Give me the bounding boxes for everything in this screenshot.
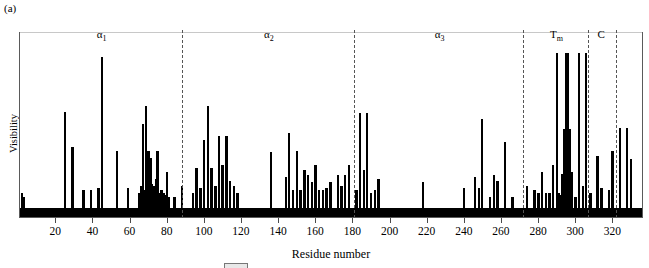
legend-box-artifact xyxy=(224,263,248,268)
x-tick xyxy=(278,218,279,223)
domain-divider-2 xyxy=(354,30,355,218)
bar xyxy=(285,177,288,209)
bar xyxy=(311,182,314,209)
bar xyxy=(337,175,340,209)
bar xyxy=(422,182,425,209)
bar xyxy=(611,151,614,209)
bar xyxy=(596,156,599,209)
bar xyxy=(533,190,536,210)
x-tick xyxy=(204,218,205,223)
x-axis-line xyxy=(19,217,643,218)
x-tick xyxy=(390,218,391,223)
x-tick xyxy=(315,218,316,223)
x-tick-label: 100 xyxy=(195,225,212,237)
baseline-band xyxy=(20,208,642,217)
bar xyxy=(578,53,580,209)
x-tick xyxy=(427,218,428,223)
bar xyxy=(630,159,633,209)
bar xyxy=(626,128,628,209)
bar xyxy=(82,190,85,210)
bar xyxy=(71,147,74,209)
x-tick-label: 320 xyxy=(604,225,621,237)
bar xyxy=(64,112,66,209)
x-tick-label: 60 xyxy=(124,225,136,237)
bar xyxy=(116,151,119,209)
x-tick xyxy=(464,218,465,223)
x-tick xyxy=(352,218,353,223)
x-tick xyxy=(167,218,168,223)
bar xyxy=(474,177,477,209)
domain-label-alpha-3: α3 xyxy=(435,28,445,43)
bar xyxy=(195,168,198,209)
domain-label-alpha-1: α1 xyxy=(97,28,107,43)
bar xyxy=(199,188,202,209)
bar xyxy=(359,113,361,209)
bar xyxy=(340,186,343,209)
x-tick-label: 140 xyxy=(269,225,286,237)
x-tick xyxy=(501,218,502,223)
bar xyxy=(348,165,351,209)
bar xyxy=(203,140,206,209)
bar xyxy=(370,193,373,209)
bar xyxy=(210,168,213,209)
x-tick-label: 240 xyxy=(455,225,472,237)
bar xyxy=(221,165,224,209)
bar xyxy=(481,119,483,209)
bar xyxy=(552,165,555,209)
x-tick xyxy=(612,218,613,223)
x-tick-label: 300 xyxy=(567,225,584,237)
x-tick xyxy=(538,218,539,223)
bar xyxy=(478,188,481,209)
bar xyxy=(329,182,332,209)
bar xyxy=(366,113,368,209)
bar xyxy=(344,175,347,209)
bar xyxy=(374,190,377,210)
bar xyxy=(192,193,195,209)
bar xyxy=(218,136,221,209)
x-tick-label: 80 xyxy=(161,225,173,237)
bar xyxy=(496,181,499,209)
domain-label-c: C xyxy=(598,28,605,40)
x-tick xyxy=(130,218,131,223)
bar xyxy=(589,193,592,209)
bar xyxy=(537,193,540,209)
x-tick xyxy=(241,218,242,223)
bar xyxy=(127,188,130,209)
x-tick xyxy=(55,218,56,223)
domain-divider-4 xyxy=(588,30,589,218)
x-tick xyxy=(92,218,93,223)
x-tick-label: 280 xyxy=(529,225,546,237)
bar xyxy=(541,172,544,209)
x-tick-label: 180 xyxy=(344,225,361,237)
x-tick-label: 20 xyxy=(50,225,62,237)
bar xyxy=(207,106,209,209)
bar xyxy=(288,133,290,209)
bar xyxy=(318,190,321,210)
x-axis-label: Residue number xyxy=(20,247,642,262)
bar xyxy=(463,188,466,209)
bar xyxy=(608,190,611,210)
bar xyxy=(303,170,306,209)
bar xyxy=(545,193,548,209)
bar xyxy=(214,186,217,209)
bar xyxy=(377,179,380,209)
bar xyxy=(600,188,603,209)
bar xyxy=(296,151,299,209)
bar xyxy=(526,186,529,209)
y-axis-label: Visibility xyxy=(8,84,19,184)
bar xyxy=(570,172,573,209)
bar xyxy=(270,152,273,209)
bar xyxy=(101,57,103,209)
bar xyxy=(556,53,558,209)
bar xyxy=(363,170,366,209)
bar xyxy=(90,190,93,210)
x-tick-label: 260 xyxy=(492,225,509,237)
bar xyxy=(585,53,587,209)
bar-series xyxy=(20,32,642,209)
bar xyxy=(299,190,302,210)
domain-label-alpha-2: α2 xyxy=(264,28,274,43)
domain-divider-5 xyxy=(616,30,617,218)
x-tick-label: 160 xyxy=(307,225,324,237)
bar xyxy=(322,190,325,210)
bar xyxy=(307,175,310,209)
